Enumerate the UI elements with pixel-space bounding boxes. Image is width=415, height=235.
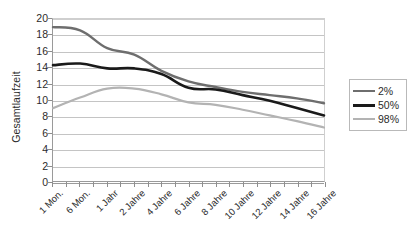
x-axis-tick	[298, 182, 299, 187]
y-axis-tick-label: 2	[26, 160, 48, 171]
y-axis-tick-label: 14	[26, 62, 48, 73]
y-axis-title: Gesamtlaufzeit	[8, 52, 24, 162]
y-axis-tick-labels: 02468101214161820	[26, 11, 48, 189]
y-axis-tick-label: 8	[26, 111, 48, 122]
series-line-50pct	[53, 63, 324, 115]
series-line-98pct	[53, 88, 324, 128]
legend-label: 50%	[378, 100, 399, 111]
legend-swatch-98pct	[353, 118, 375, 120]
x-axis-tick-label-text: 2 Jahre	[117, 188, 146, 217]
y-axis-tick-label: 12	[26, 78, 48, 89]
x-axis-tick-label: 1 Mon.	[37, 188, 64, 215]
y-axis-tick-label: 18	[26, 29, 48, 40]
legend-swatch-50pct	[353, 104, 375, 107]
x-axis-tick	[229, 182, 230, 187]
x-axis-tick-label-text: 12 Jahre	[250, 188, 283, 221]
legend-swatch-2pct	[353, 90, 375, 92]
x-axis-tick	[134, 182, 135, 187]
x-axis-tick	[148, 182, 149, 187]
legend-label: 2%	[378, 86, 393, 97]
x-axis-tick	[93, 182, 94, 187]
x-axis-tick-label: 1 Jahr	[94, 188, 119, 213]
x-axis-tick-label: 6 Mon.	[65, 188, 92, 215]
x-axis-tick	[107, 182, 108, 187]
x-axis-tick-label: 12 Jahre	[250, 188, 283, 221]
x-axis-tick	[270, 182, 271, 187]
line-chart: Gesamtlaufzeit 02468101214161820 1 Mon.6…	[0, 0, 415, 235]
legend-label: 98%	[378, 114, 399, 125]
x-axis-tick	[161, 182, 162, 187]
x-axis-tick-label-text: 6 Jahre	[172, 188, 201, 217]
x-axis-tick-label-text: 1 Jahr	[94, 188, 119, 213]
x-axis-tick-label: 4 Jahre	[145, 188, 174, 217]
x-axis-tick	[79, 182, 80, 187]
x-axis-tick-label-text: 1 Mon.	[37, 188, 64, 215]
legend-item[interactable]: 2%	[353, 84, 403, 98]
x-axis-tick	[216, 182, 217, 187]
legend-item[interactable]: 98%	[353, 112, 403, 126]
x-axis-tick	[284, 182, 285, 187]
x-axis-tick	[52, 182, 53, 187]
x-axis-tick-label: 14 Jahre	[278, 188, 311, 221]
x-axis-tick	[120, 182, 121, 187]
x-axis-tick	[202, 182, 203, 187]
legend: 2% 50% 98%	[349, 79, 407, 131]
y-axis-tick-label: 6	[26, 128, 48, 139]
x-axis-tick-labels: 1 Mon.6 Mon.1 Jahr2 Jahre4 Jahre6 Jahre8…	[52, 188, 326, 234]
x-axis-tick	[189, 182, 190, 187]
y-axis-tick-label: 4	[26, 144, 48, 155]
x-axis-tick-label: 2 Jahre	[117, 188, 146, 217]
x-axis-tick	[257, 182, 258, 187]
y-axis-tick-label: 20	[26, 13, 48, 24]
x-axis-tick-label: 6 Jahre	[172, 188, 201, 217]
plot-area	[52, 18, 325, 182]
x-axis-tick-label-text: 4 Jahre	[145, 188, 174, 217]
legend-item[interactable]: 50%	[353, 98, 403, 112]
x-axis-tick	[175, 182, 176, 187]
x-axis-tick	[325, 182, 326, 187]
x-axis-tick-label-text: 14 Jahre	[278, 188, 311, 221]
y-axis-tick-label: 16	[26, 46, 48, 57]
y-axis-tick-label: 0	[26, 177, 48, 188]
x-axis-tick	[66, 182, 67, 187]
x-axis-tick-label-text: 6 Mon.	[65, 188, 92, 215]
x-axis-tick	[311, 182, 312, 187]
y-axis-title-text: Gesamtlaufzeit	[10, 71, 22, 142]
y-axis-tick-label: 10	[26, 95, 48, 106]
series-lines	[53, 19, 324, 181]
x-axis-tick	[243, 182, 244, 187]
x-axis-tick-marks	[52, 182, 326, 187]
